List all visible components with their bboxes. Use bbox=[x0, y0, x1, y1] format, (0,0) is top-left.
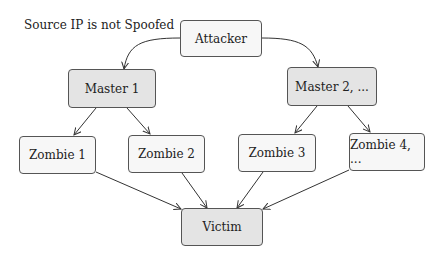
edge-attacker-master2 bbox=[262, 38, 318, 67]
edge-zombie4-victim bbox=[263, 170, 349, 209]
diagram-caption: Source IP is not Spoofed bbox=[24, 18, 174, 32]
node-victim: Victim bbox=[181, 208, 263, 246]
node-master-2: Master 2, ... bbox=[287, 67, 377, 106]
node-zombie-2: Zombie 2 bbox=[128, 135, 205, 173]
edge-master1-zombie1 bbox=[74, 108, 96, 135]
node-label: Zombie 1 bbox=[29, 148, 86, 162]
node-label: Victim bbox=[202, 220, 241, 234]
edge-attacker-master1 bbox=[124, 38, 180, 69]
node-master-1: Master 1 bbox=[68, 69, 156, 108]
node-label: Zombie 2 bbox=[138, 147, 195, 161]
edge-zombie2-victim bbox=[182, 173, 207, 208]
ddos-diagram: Source IP is not Spoofed Attacker Master… bbox=[0, 0, 444, 262]
node-attacker: Attacker bbox=[180, 20, 262, 57]
edge-master2-zombie4 bbox=[348, 106, 370, 132]
node-label: Master 2, ... bbox=[295, 80, 369, 94]
node-label: Attacker bbox=[195, 32, 247, 46]
node-zombie-1: Zombie 1 bbox=[19, 136, 96, 174]
node-zombie-3: Zombie 3 bbox=[238, 134, 316, 172]
edge-zombie3-victim bbox=[237, 172, 263, 208]
node-label: Zombie 4, ... bbox=[350, 138, 424, 166]
edge-master2-zombie3 bbox=[295, 106, 317, 133]
node-zombie-4: Zombie 4, ... bbox=[349, 133, 425, 171]
edge-master1-zombie2 bbox=[127, 108, 150, 134]
node-label: Master 1 bbox=[85, 82, 140, 96]
node-label: Zombie 3 bbox=[248, 146, 305, 160]
edge-zombie1-victim bbox=[96, 172, 181, 209]
